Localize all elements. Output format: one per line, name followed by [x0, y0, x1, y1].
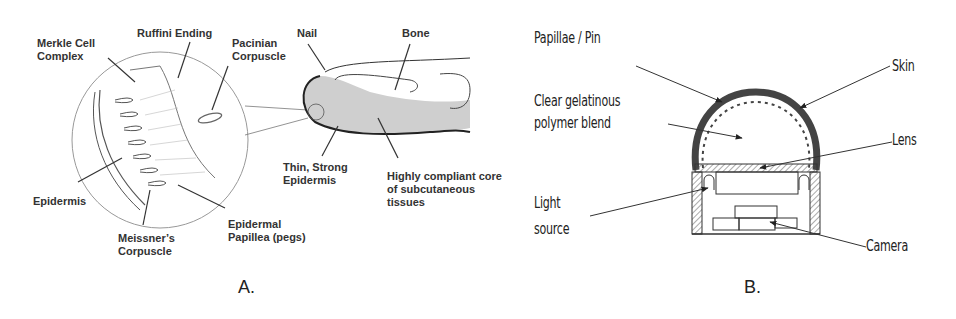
- label-line: Merkle Cell: [37, 37, 95, 50]
- label-line: Thin, Strong: [283, 161, 348, 174]
- label-clear-gelatinous-polymer: Clear gelatinous polymer blend: [534, 90, 620, 134]
- label-thin-strong-epidermis: Thin, Strong Epidermis: [283, 161, 348, 187]
- label-line: Epidermis: [283, 174, 348, 187]
- label-merkle-cell-complex: Merkle Cell Complex: [37, 37, 95, 63]
- panel-b-letter: B.: [744, 277, 761, 298]
- label-papillae-pin: Papillae / Pin: [534, 28, 601, 48]
- label-bone: Bone: [402, 27, 430, 40]
- label-pacinian-corpuscle: Pacinian Corpuscle: [232, 37, 286, 63]
- label-lens: Lens: [892, 130, 917, 150]
- label-line: Corpuscle: [118, 245, 175, 258]
- label-nail: Nail: [297, 27, 317, 40]
- diagram-canvas: [0, 0, 956, 319]
- label-line: Meissner’s: [118, 232, 175, 245]
- label-camera: Camera: [866, 236, 908, 256]
- label-line: Clear gelatinous: [534, 90, 620, 112]
- panel-a-letter: A.: [238, 277, 255, 298]
- tactile-sensor-cross-section: [692, 92, 820, 234]
- label-line: Complex: [37, 50, 95, 63]
- label-meissners-corpuscle: Meissner’s Corpuscle: [118, 232, 175, 258]
- label-ruffini-ending: Ruffini Ending: [137, 27, 212, 40]
- label-line: of subcutaneous: [387, 183, 502, 196]
- label-line: Pacinian: [232, 37, 286, 50]
- label-epidermal-papillea: Epidermal Papillea (pegs): [228, 218, 306, 244]
- label-line: Highly compliant core: [387, 170, 502, 183]
- label-line: Epidermal: [228, 218, 306, 231]
- label-epidermis: Epidermis: [33, 195, 86, 208]
- label-line: Papillea (pegs): [228, 231, 306, 244]
- label-line: polymer blend: [534, 112, 620, 134]
- label-line: source: [534, 216, 569, 242]
- label-skin: Skin: [892, 56, 915, 76]
- skin-cross-section: [72, 52, 308, 228]
- label-line: tissues: [387, 196, 502, 209]
- fingertip-illustration: [304, 58, 470, 134]
- label-line: Light: [534, 190, 569, 216]
- label-line: Corpuscle: [232, 50, 286, 63]
- label-light-source: Light source: [534, 190, 569, 242]
- label-highly-compliant-core: Highly compliant core of subcutaneous ti…: [387, 170, 502, 209]
